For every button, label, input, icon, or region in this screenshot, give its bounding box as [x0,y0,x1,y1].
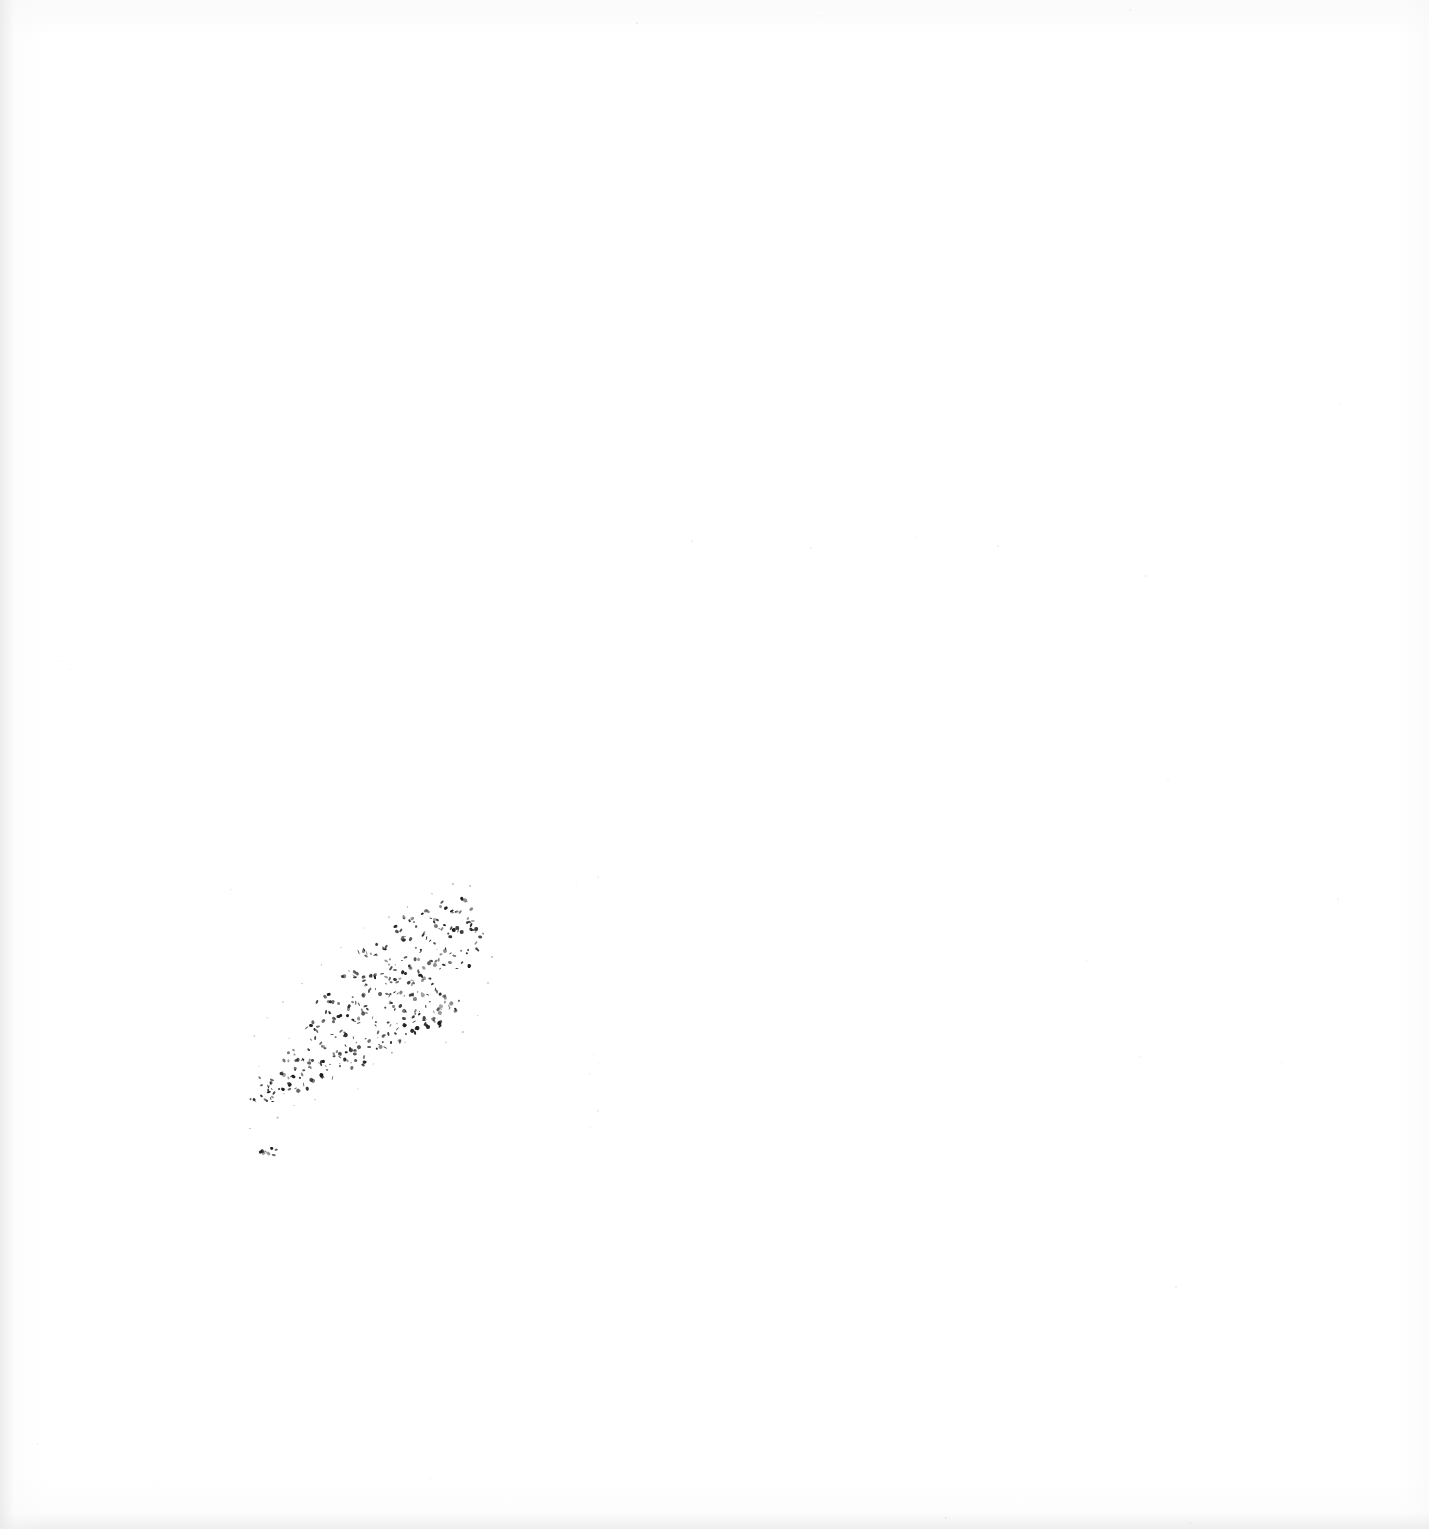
ink-speck [338,1056,341,1059]
ink-speck [332,1076,334,1080]
ink-speck [391,1052,394,1054]
ink-speck [420,993,425,998]
ink-speck [387,1032,390,1037]
ink-speck [299,1076,302,1078]
ink-speck [394,1031,398,1035]
ink-speck [300,1072,304,1076]
page-noise-specks [0,0,1429,1529]
ink-speck [377,1037,379,1039]
ink-speck [293,1069,296,1072]
ink-speck [356,1088,358,1090]
ink-speck [818,16,820,18]
ink-speck [467,963,471,967]
ink-speck [37,1443,39,1445]
ink-speck [349,1047,351,1051]
ink-speck [352,1037,353,1040]
ink-speck [1336,897,1339,899]
ink-speck [433,917,437,921]
ink-speck [374,1024,377,1027]
ink-speck [589,1127,591,1130]
ink-speck [398,990,403,995]
ink-speck [371,1016,373,1019]
ink-speck [347,1004,352,1009]
ink-speck [373,973,377,977]
ink-speck [384,945,388,949]
ink-speck [444,947,446,950]
ink-speck [321,964,323,966]
ink-speck [393,978,398,982]
ink-speck [351,1000,354,1003]
ink-speck [455,911,457,913]
ink-speck [458,1000,460,1003]
ink-speck [351,996,354,998]
ink-speck [438,1004,443,1009]
ink-speck [343,1035,345,1037]
ink-speck [382,1035,385,1038]
ink-speck [444,996,447,999]
ink-speck [316,1025,320,1028]
ink-speck [324,1047,327,1050]
ink-speck [436,918,439,921]
ink-speck [491,956,493,958]
ink-speck [443,949,448,954]
ink-speck [406,980,411,985]
ink-speck [997,544,1000,547]
ink-speck [358,950,361,955]
ink-speck [352,974,355,977]
ink-speck [448,1004,450,1008]
ink-speck [277,1088,279,1091]
ink-speck [410,1028,415,1034]
ink-speck [466,949,469,952]
ink-speck [311,1059,314,1062]
ink-speck [453,928,456,930]
ink-speck [362,1061,366,1064]
ink-speck [420,992,422,994]
ink-speck [425,1017,428,1020]
ink-speck [404,972,407,975]
ink-speck [439,953,442,956]
ink-speck [305,1087,309,1092]
ink-speck [307,1048,310,1051]
ink-speck [258,1065,260,1067]
ink-speck [294,1058,299,1062]
ink-speck [422,930,426,935]
ink-speck [269,1097,271,1100]
ink-speck [261,1149,266,1154]
ink-speck [443,1000,447,1004]
ink-speck [402,915,406,920]
ink-speck [318,1073,324,1079]
ink-speck [362,980,366,983]
ink-speck [281,1072,286,1077]
ink-speck [436,1020,442,1026]
ink-speck [429,1477,431,1479]
ink-speck [478,935,482,938]
ink-speck [381,1040,383,1043]
ink-speck [329,1064,331,1066]
ink-speck [361,1064,365,1068]
ink-speck [431,892,433,894]
ink-speck [362,1062,365,1064]
ink-speck [319,1060,323,1064]
ink-speck [390,1002,394,1004]
scanner-vignette [0,0,1429,1529]
ink-speck [308,1077,314,1083]
ink-speck [339,1029,343,1033]
ink-speck [445,1041,447,1043]
ink-speck [369,987,371,990]
ink-speck [324,1065,326,1067]
ink-speck [433,1016,436,1019]
ink-speck [338,1064,340,1066]
ink-speck [352,1052,357,1056]
ink-speck [383,1046,387,1049]
ink-speck [361,994,365,998]
ink-speck [378,1044,380,1045]
ink-speck [270,1078,275,1081]
ink-speck [469,885,472,887]
ink-speck [338,1052,341,1056]
ink-speck [423,1016,426,1021]
ink-speck [450,909,454,912]
ink-speck [345,1059,349,1063]
ink-speck [368,973,373,978]
ink-speck [392,1005,395,1008]
ink-speck [451,912,454,913]
